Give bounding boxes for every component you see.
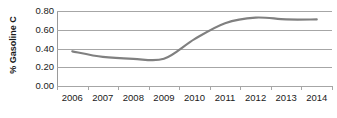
x-axis-tick-label: 2014 xyxy=(300,92,334,104)
x-axis-tick xyxy=(88,86,89,90)
series-line-gasoline-c xyxy=(57,11,332,86)
y-axis-tick-labels: 0.000.200.400.600.80 xyxy=(25,0,54,90)
x-axis-tick xyxy=(210,86,211,90)
x-axis-tick-label: 2008 xyxy=(116,92,150,104)
x-axis-tick-label: 2011 xyxy=(208,92,242,104)
y-axis-title-label: % Gasoline C xyxy=(8,16,18,74)
x-axis-tick-label: 2012 xyxy=(239,92,273,104)
x-axis-tick xyxy=(118,86,119,90)
plot-area xyxy=(57,11,332,86)
x-axis-tick xyxy=(179,86,180,90)
x-axis-tick xyxy=(332,86,333,90)
gasoline-c-line-chart: % Gasoline C 0.000.200.400.600.80 200620… xyxy=(0,0,337,118)
data-line xyxy=(72,17,316,60)
x-axis-tick xyxy=(57,86,58,90)
x-axis-tick-label: 2009 xyxy=(147,92,181,104)
y-axis-tick-label: 0.80 xyxy=(26,6,54,16)
x-axis-tick-marks xyxy=(57,86,333,91)
y-axis-title: % Gasoline C xyxy=(0,0,26,90)
x-axis-tick-label: 2010 xyxy=(178,92,212,104)
y-axis-tick-label: 0.60 xyxy=(26,25,54,35)
x-axis-tick-label: 2006 xyxy=(55,92,89,104)
x-axis-tick xyxy=(271,86,272,90)
y-axis-tick-label: 0.20 xyxy=(26,62,54,72)
x-axis-tick xyxy=(149,86,150,90)
y-axis-tick-label: 0.00 xyxy=(26,81,54,91)
x-axis-tick xyxy=(240,86,241,90)
x-axis-tick-label: 2013 xyxy=(269,92,303,104)
x-axis-tick-labels: 200620072008200920102011201220132014 xyxy=(57,92,333,106)
x-axis-tick xyxy=(301,86,302,90)
x-axis-tick-label: 2007 xyxy=(86,92,120,104)
y-axis-tick-label: 0.40 xyxy=(26,44,54,54)
